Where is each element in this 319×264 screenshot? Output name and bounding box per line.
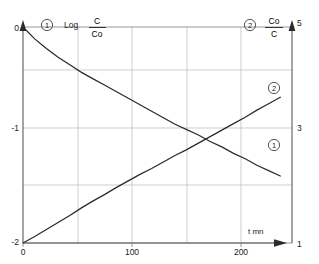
y-left-tick-minus1: -1 (11, 123, 19, 133)
y-right-tick-5: 5 (297, 18, 302, 28)
y-left-tick-0: 0 (14, 23, 19, 33)
series-2-header-tag: 2 (248, 21, 252, 30)
right-axis-label-denominator: C (271, 29, 277, 39)
axes (20, 20, 296, 247)
x-tick-200: 200 (234, 247, 248, 257)
y-right-tick-3: 3 (297, 123, 302, 133)
chart-container: 0 -1 -2 5 3 1 0 100 200 t mn 1 Log C Co … (0, 0, 319, 264)
left-axis-label-log: Log (64, 20, 78, 30)
x-axis-title: t mn (248, 227, 264, 236)
right-axis-header: 2 Co C (244, 16, 283, 39)
grid-lines (23, 27, 292, 243)
plot-frame (23, 27, 292, 243)
left-axis-header: 1 Log C Co (41, 16, 106, 39)
series-2-curve (23, 97, 280, 243)
series-1-curve (23, 27, 280, 176)
left-axis-label-numerator: C (94, 16, 100, 26)
y-left-tick-minus2: -2 (11, 237, 19, 247)
series-1-inline-label: 1 (268, 139, 279, 150)
right-y-axis-arrow-icon (289, 20, 296, 31)
x-tick-100: 100 (125, 247, 139, 257)
x-tick-0: 0 (21, 247, 26, 257)
x-axis-arrow-icon (274, 239, 287, 246)
chart-plot-area: 0 -1 -2 5 3 1 0 100 200 t mn 1 Log C Co … (0, 0, 319, 264)
series-1-inline-tag: 1 (272, 141, 276, 150)
left-axis-label-denominator: Co (92, 29, 103, 39)
series-1-header-tag: 1 (45, 21, 49, 30)
series-2-inline-tag: 2 (272, 84, 276, 93)
right-axis-label-numerator: Co (269, 16, 280, 26)
y-right-tick-1: 1 (297, 239, 302, 249)
series-2-inline-label: 2 (268, 82, 279, 93)
